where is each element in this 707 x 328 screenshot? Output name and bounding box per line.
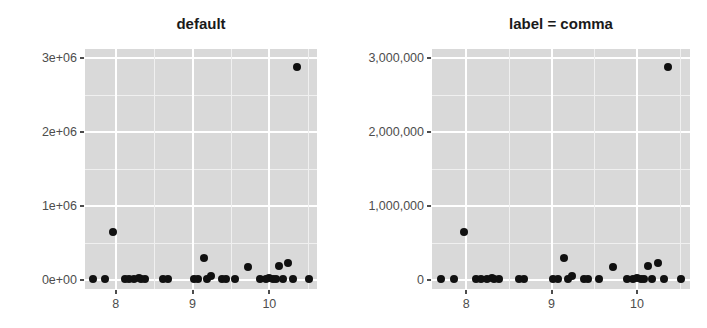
- facet-title-comma: label = comma: [432, 14, 690, 34]
- gridline-vertical-minor: [509, 49, 510, 289]
- y-axis-tick-mark: [427, 205, 431, 207]
- y-axis-tick-mark: [80, 57, 84, 59]
- gridline-vertical-major: [268, 49, 270, 289]
- gridline-vertical-major: [551, 49, 553, 289]
- data-point: [568, 272, 576, 280]
- data-point: [275, 262, 283, 270]
- data-point: [495, 275, 503, 283]
- x-axis-tick-mark: [551, 290, 553, 294]
- data-point: [450, 275, 458, 283]
- data-point: [654, 259, 662, 267]
- facet-comma: label = comma 01,000,0002,000,0003,000,0…: [353, 0, 707, 328]
- x-axis-tick-mark: [636, 290, 638, 294]
- x-axis-tick-label: 8: [441, 297, 491, 312]
- data-point: [222, 275, 230, 283]
- data-point: [101, 275, 109, 283]
- gridline-horizontal-major: [85, 131, 317, 133]
- data-point: [560, 254, 568, 262]
- x-axis-tick-mark: [268, 290, 270, 294]
- data-point: [279, 275, 287, 283]
- gridline-vertical-minor: [308, 49, 309, 289]
- data-point: [648, 275, 656, 283]
- data-point: [664, 63, 672, 71]
- y-axis-tick-label: 2,000,000: [314, 125, 424, 139]
- data-point: [584, 275, 592, 283]
- y-axis-tick-label: 1,000,000: [314, 199, 424, 213]
- gridline-horizontal-minor: [432, 95, 690, 96]
- data-point: [231, 275, 239, 283]
- gridline-horizontal-minor: [85, 95, 317, 96]
- gridline-horizontal-minor: [85, 243, 317, 244]
- data-point: [437, 275, 445, 283]
- x-axis-tick-label: 9: [168, 297, 218, 312]
- data-point: [200, 254, 208, 262]
- gridline-vertical-minor: [594, 49, 595, 289]
- facet-default: default 0e+001e+062e+063e+06 8910: [0, 0, 353, 328]
- data-point: [284, 259, 292, 267]
- data-point: [460, 228, 468, 236]
- data-point: [244, 263, 252, 271]
- data-point: [194, 275, 202, 283]
- x-axis-tick-mark: [465, 290, 467, 294]
- y-axis-tick-label: 0e+00: [0, 273, 77, 287]
- gridline-vertical-major: [192, 49, 194, 289]
- data-point: [293, 63, 301, 71]
- data-point: [164, 275, 172, 283]
- data-point: [609, 263, 617, 271]
- gridline-horizontal-major: [432, 131, 690, 133]
- gridline-vertical-minor: [154, 49, 155, 289]
- data-point: [677, 275, 685, 283]
- y-axis-tick-mark: [427, 279, 431, 281]
- plot-panel-comma: [432, 49, 690, 289]
- figure-root: default 0e+001e+062e+063e+06 8910 label …: [0, 0, 707, 328]
- gridline-horizontal-minor: [85, 169, 317, 170]
- x-axis-tick-label: 8: [91, 297, 141, 312]
- x-axis-tick-mark: [115, 290, 117, 294]
- data-point: [644, 262, 652, 270]
- y-axis-tick-mark: [80, 279, 84, 281]
- data-point: [89, 275, 97, 283]
- x-axis-tick-label: 10: [244, 297, 294, 312]
- y-axis-tick-mark: [427, 57, 431, 59]
- gridline-horizontal-major: [432, 205, 690, 207]
- y-axis-tick-label: 1e+06: [0, 199, 77, 213]
- data-point: [640, 275, 648, 283]
- y-axis-tick-mark: [427, 131, 431, 133]
- data-point: [305, 275, 313, 283]
- plot-panel-default: [85, 49, 317, 289]
- gridline-vertical-major: [115, 49, 117, 289]
- data-point: [554, 275, 562, 283]
- x-axis-tick-label: 9: [527, 297, 577, 312]
- y-axis-tick-label: 2e+06: [0, 125, 77, 139]
- x-axis-tick-mark: [192, 290, 194, 294]
- y-axis-tick-mark: [80, 205, 84, 207]
- y-axis-tick-label: 3e+06: [0, 51, 77, 65]
- gridline-horizontal-minor: [432, 169, 690, 170]
- gridline-vertical-major: [636, 49, 638, 289]
- gridline-vertical-minor: [680, 49, 681, 289]
- data-point: [289, 275, 297, 283]
- gridline-horizontal-minor: [432, 243, 690, 244]
- data-point: [660, 275, 668, 283]
- data-point: [141, 275, 149, 283]
- y-axis-tick-mark: [80, 131, 84, 133]
- gridline-vertical-major: [465, 49, 467, 289]
- gridline-horizontal-major: [432, 57, 690, 59]
- gridline-horizontal-major: [85, 205, 317, 207]
- facet-title-default: default: [85, 14, 317, 34]
- data-point: [595, 275, 603, 283]
- y-axis-tick-label: 0: [314, 273, 424, 287]
- y-axis-tick-label: 3,000,000: [314, 51, 424, 65]
- gridline-horizontal-major: [85, 57, 317, 59]
- gridline-vertical-minor: [231, 49, 232, 289]
- data-point: [207, 272, 215, 280]
- x-axis-tick-label: 10: [612, 297, 662, 312]
- data-point: [520, 275, 528, 283]
